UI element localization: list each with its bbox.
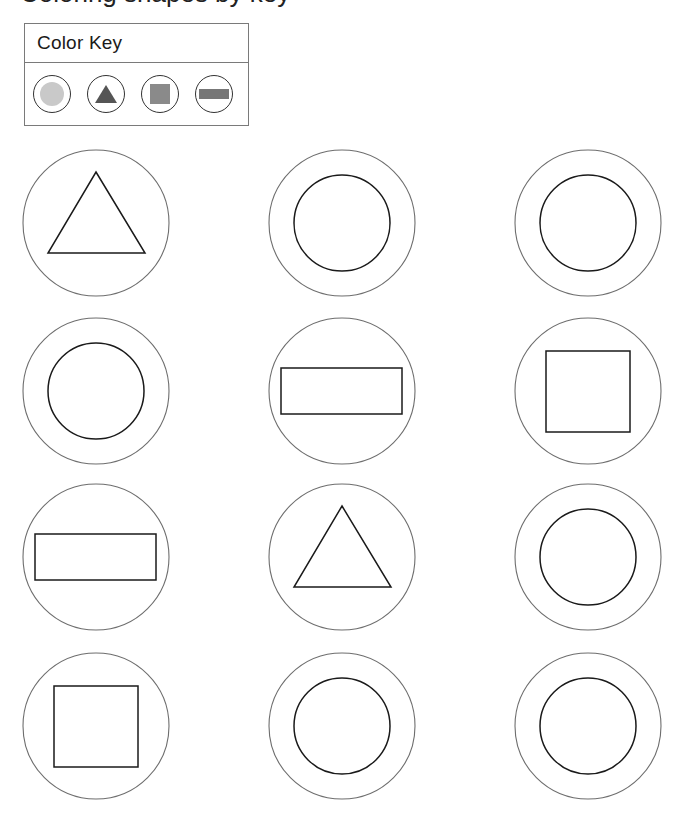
grid-cell-circle[interactable] <box>515 653 661 799</box>
grid-cell-square[interactable] <box>23 653 169 799</box>
outer-circle <box>23 484 169 630</box>
grid-cell-circle[interactable] <box>515 484 661 630</box>
outer-circle <box>23 318 169 464</box>
outer-circle <box>269 653 415 799</box>
grid-cell-circle[interactable] <box>269 653 415 799</box>
grid-cell-triangle[interactable] <box>269 484 415 630</box>
shapes-grid <box>0 0 678 820</box>
grid-cell-rectangle[interactable] <box>23 484 169 630</box>
outer-circle <box>23 653 169 799</box>
outer-circle <box>269 150 415 296</box>
grid-cell-circle[interactable] <box>23 318 169 464</box>
grid-cell-circle[interactable] <box>515 150 661 296</box>
grid-cell-circle[interactable] <box>269 150 415 296</box>
grid-cell-square[interactable] <box>515 318 661 464</box>
grid-cell-rectangle[interactable] <box>269 318 415 464</box>
outer-circle <box>515 318 661 464</box>
outer-circle <box>515 150 661 296</box>
grid-cell-triangle[interactable] <box>23 150 169 296</box>
outer-circle <box>515 484 661 630</box>
outer-circle <box>269 318 415 464</box>
outer-circle <box>515 653 661 799</box>
